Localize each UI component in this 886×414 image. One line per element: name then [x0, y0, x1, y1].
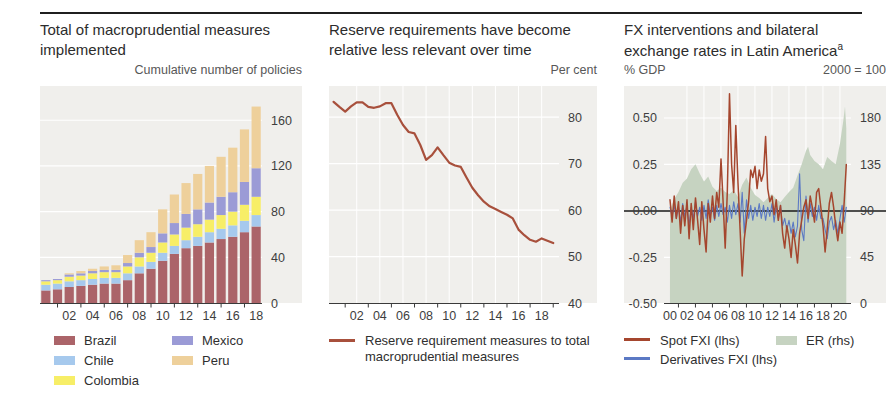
svg-text:80: 80 — [271, 205, 285, 219]
svg-text:02: 02 — [350, 309, 364, 322]
legend-row: Spot FXI (lhs) ER (rhs) — [624, 333, 886, 348]
svg-text:04: 04 — [373, 309, 387, 322]
legend-item-mexico: Mexico — [172, 333, 302, 348]
peru-swatch — [172, 356, 193, 365]
panels-row: Total of macroprudential measures implem… — [40, 20, 886, 388]
colombia-swatch — [54, 376, 75, 385]
svg-text:10: 10 — [748, 309, 762, 322]
legend-item-peru: Peru — [172, 353, 302, 368]
legend-label: Peru — [202, 353, 229, 368]
spot-fxi-line-marker — [624, 338, 650, 341]
chart-canvas: 0002040608101214161820180135904500.500.2… — [624, 86, 886, 321]
svg-text:45: 45 — [860, 250, 874, 264]
panel-title: Total of macroprudential measures implem… — [40, 20, 302, 60]
chart-canvas: 0204060810121416188070605040 — [329, 86, 597, 321]
panel-title: FX interventions and bilateral exchange … — [624, 20, 886, 60]
svg-text:120: 120 — [271, 159, 292, 173]
legend-label: Brazil — [84, 333, 117, 348]
derivatives-fxi-line-marker — [624, 357, 650, 360]
axis-unit-row: % GDP 2000 = 100 — [624, 63, 886, 80]
svg-text:10: 10 — [442, 309, 456, 322]
svg-text:08: 08 — [419, 309, 433, 322]
svg-text:40: 40 — [568, 297, 582, 311]
legend-label: Spot FXI (lhs) — [660, 333, 739, 348]
svg-text:12: 12 — [765, 309, 779, 322]
legend-label: Derivatives FXI (lhs) — [660, 352, 777, 367]
legend-label: Mexico — [202, 333, 243, 348]
svg-text:14: 14 — [202, 309, 216, 322]
svg-text:0.00: 0.00 — [633, 204, 657, 218]
svg-text:135: 135 — [860, 158, 881, 172]
svg-text:20: 20 — [833, 309, 847, 322]
svg-text:18: 18 — [816, 309, 830, 322]
er-swatch — [776, 336, 797, 345]
chile-swatch — [54, 356, 75, 365]
svg-text:14: 14 — [488, 309, 502, 322]
line-chart: 0204060810121416188070605040 — [329, 86, 597, 321]
footnote-marker: a — [837, 41, 843, 52]
fx-interventions-chart: 0002040608101214161820180135904500.500.2… — [624, 86, 886, 321]
svg-text:0.50: 0.50 — [633, 111, 657, 125]
red-line-marker — [329, 339, 355, 342]
svg-text:16: 16 — [226, 309, 240, 322]
svg-text:12: 12 — [179, 309, 193, 322]
svg-text:0.25: 0.25 — [633, 158, 657, 172]
legend-label: Chile — [84, 353, 114, 368]
legend: Brazil Chile Colombia Mexico Peru — [40, 333, 302, 388]
svg-text:06: 06 — [396, 309, 410, 322]
svg-text:0: 0 — [271, 297, 278, 311]
svg-text:18: 18 — [249, 309, 263, 322]
svg-text:04: 04 — [697, 309, 711, 322]
y-axis-unit-label: Per cent — [550, 63, 597, 80]
legend-item-derivatives-fxi: Derivatives FXI (lhs) — [624, 352, 777, 367]
svg-text:12: 12 — [465, 309, 479, 322]
panel-title: Reserve requirements have become relativ… — [329, 20, 597, 60]
svg-text:-0.25: -0.25 — [629, 251, 658, 265]
stacked-bar-chart: 02040608101214161816012080400 — [40, 86, 302, 321]
svg-text:0: 0 — [860, 297, 867, 311]
legend-item-chile: Chile — [54, 353, 172, 368]
panel-fx-interventions: FX interventions and bilateral exchange … — [624, 20, 886, 388]
top-rule — [40, 12, 862, 14]
svg-text:06: 06 — [109, 309, 123, 322]
svg-text:80: 80 — [568, 111, 582, 125]
svg-text:-0.50: -0.50 — [629, 297, 658, 311]
svg-text:08: 08 — [132, 309, 146, 322]
legend-label: Colombia — [84, 373, 139, 388]
svg-text:16: 16 — [512, 309, 526, 322]
panel-macroprudential-measures: Total of macroprudential measures implem… — [40, 20, 302, 388]
svg-text:70: 70 — [568, 157, 582, 171]
svg-text:10: 10 — [156, 309, 170, 322]
svg-text:90: 90 — [860, 204, 874, 218]
svg-text:04: 04 — [86, 309, 100, 322]
right-axis-unit-label: 2000 = 100 — [823, 63, 886, 80]
svg-text:50: 50 — [568, 250, 582, 264]
legend-label: ER (rhs) — [806, 333, 854, 348]
legend-item-reserve-requirements: Reserve requirement measures to total ma… — [329, 333, 597, 366]
svg-text:02: 02 — [680, 309, 694, 322]
mexico-swatch — [172, 336, 193, 345]
svg-text:180: 180 — [860, 111, 881, 125]
brazil-swatch — [54, 336, 75, 345]
legend-row: Derivatives FXI (lhs) — [624, 352, 886, 367]
svg-text:06: 06 — [714, 309, 728, 322]
svg-text:40: 40 — [271, 251, 285, 265]
legend: Reserve requirement measures to total ma… — [329, 333, 597, 366]
svg-text:160: 160 — [271, 114, 292, 128]
legend: Spot FXI (lhs) ER (rhs) Derivatives FXI … — [624, 333, 886, 367]
legend-label: Reserve requirement measures to total ma… — [365, 333, 597, 366]
chart-canvas: 02040608101214161816012080400 — [40, 86, 302, 321]
legend-item-spot-fxi: Spot FXI (lhs) — [624, 333, 776, 348]
left-axis-unit-label: % GDP — [624, 63, 666, 80]
svg-text:14: 14 — [782, 309, 796, 322]
svg-text:02: 02 — [62, 309, 76, 322]
panel-reserve-requirements: Reserve requirements have become relativ… — [329, 20, 597, 388]
svg-text:18: 18 — [535, 309, 549, 322]
svg-text:00: 00 — [663, 309, 677, 322]
legend-item-er: ER (rhs) — [776, 333, 854, 348]
legend-item-brazil: Brazil — [54, 333, 172, 348]
svg-text:16: 16 — [799, 309, 813, 322]
legend-item-colombia: Colombia — [54, 373, 172, 388]
axis-unit-row: Per cent — [329, 63, 597, 80]
